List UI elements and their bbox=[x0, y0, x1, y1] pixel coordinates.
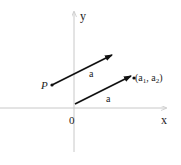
x-axis-label: x bbox=[161, 113, 167, 127]
point-p-label: P bbox=[40, 79, 48, 91]
vector-from-origin bbox=[75, 76, 131, 104]
vector-label-a-bottom: a bbox=[106, 93, 111, 104]
vector-label-a-top: a bbox=[89, 68, 94, 79]
vector-diagram: y x 0 P a a (a1, a2) bbox=[0, 0, 181, 165]
y-axis-label: y bbox=[80, 9, 86, 23]
point-coordinates-label: (a1, a2) bbox=[135, 72, 163, 85]
vector-from-p bbox=[52, 55, 112, 85]
origin-label: 0 bbox=[69, 114, 75, 126]
point-p bbox=[50, 83, 53, 86]
